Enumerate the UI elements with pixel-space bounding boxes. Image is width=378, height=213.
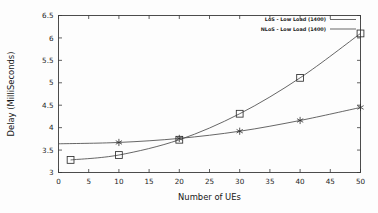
- x-tick-label: 50: [356, 177, 366, 186]
- x-tick-label: 40: [296, 177, 306, 186]
- y-tick-label: 3: [49, 168, 54, 177]
- x-tick-label: 15: [145, 177, 154, 186]
- x-tick-label: 45: [326, 177, 335, 186]
- y-tick-label: 5.5: [42, 56, 53, 65]
- legend-label-0: LoS - Low Load (1400): [265, 16, 326, 22]
- y-tick-label: 4.5: [42, 101, 53, 110]
- x-tick-label: 0: [56, 177, 61, 186]
- x-tick-label: 20: [175, 177, 185, 186]
- x-tick-label: 30: [235, 177, 245, 186]
- y-tick-label: 6.5: [42, 11, 53, 20]
- chart-figure: 0510152025303540455033.544.555.566.5Numb…: [0, 0, 378, 213]
- series-line-0: [59, 107, 361, 143]
- y-tick-label: 3.5: [42, 146, 53, 155]
- x-tick-label: 25: [205, 177, 214, 186]
- x-axis-title: Number of UEs: [178, 192, 241, 202]
- series-line-1: [71, 33, 361, 160]
- x-tick-label: 35: [265, 177, 274, 186]
- plot-frame: [59, 16, 361, 173]
- x-tick-label: 10: [114, 177, 124, 186]
- delay-vs-ues-line-chart: 0510152025303540455033.544.555.566.5Numb…: [0, 0, 378, 213]
- y-tick-label: 5: [49, 78, 54, 87]
- y-tick-label: 4: [49, 123, 54, 132]
- y-tick-label: 6: [49, 34, 54, 43]
- legend-label-1: NLoS - Low Load (1400): [261, 26, 326, 32]
- x-tick-label: 5: [86, 177, 91, 186]
- y-axis-title: Delay (MilliSeconds): [6, 52, 16, 137]
